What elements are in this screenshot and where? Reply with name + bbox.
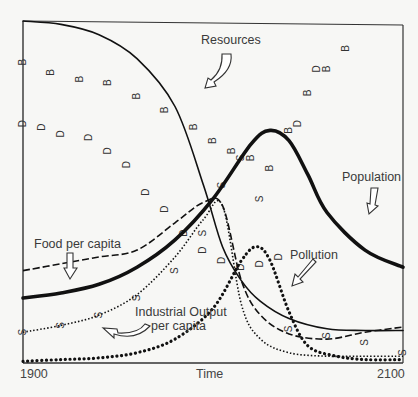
marker-d: D bbox=[102, 147, 113, 154]
resources-label: Resources bbox=[201, 33, 261, 47]
marker-d: D bbox=[121, 161, 132, 168]
marker-d: D bbox=[140, 188, 151, 195]
marker-b: B bbox=[45, 69, 56, 76]
label-arrows bbox=[64, 54, 378, 338]
pollution-label: Pollution bbox=[290, 248, 338, 262]
marker-s: S bbox=[197, 229, 208, 236]
marker-s: S bbox=[254, 195, 265, 202]
marker-b: B bbox=[74, 75, 85, 82]
marker-b: B bbox=[102, 79, 113, 86]
marker-b: B bbox=[159, 106, 170, 113]
marker-d: D bbox=[254, 260, 265, 267]
industrial-label-line2: per capita bbox=[151, 319, 206, 333]
marker-b: B bbox=[302, 89, 313, 96]
marker-b: B bbox=[188, 123, 199, 130]
marker-d: D bbox=[273, 253, 284, 260]
marker-b: B bbox=[264, 164, 275, 171]
marker-b: B bbox=[245, 154, 256, 161]
pollution-curve bbox=[23, 247, 403, 362]
marker-d: D bbox=[292, 120, 303, 127]
marker-s: S bbox=[169, 267, 180, 274]
marker-d: D bbox=[197, 247, 208, 254]
industrial-output-per-capita-curve bbox=[23, 201, 403, 357]
marker-d: D bbox=[17, 120, 28, 127]
marker-d: D bbox=[83, 134, 94, 141]
world3-chart: BBBBBBBBBBBBBBBDDDDDDDDDDDDDDDDSSSSSSSSS… bbox=[0, 0, 418, 397]
marker-b: B bbox=[131, 93, 142, 100]
marker-s: S bbox=[321, 332, 332, 339]
industrial-arrow-icon bbox=[103, 324, 150, 338]
marker-b: B bbox=[207, 137, 218, 144]
x-axis-title: Time bbox=[196, 367, 223, 381]
marker-s: S bbox=[283, 325, 294, 332]
industrial-label-line1: Industrial Output bbox=[135, 305, 227, 319]
marker-d: D bbox=[311, 65, 322, 72]
food-label: Food per capita bbox=[34, 237, 121, 251]
marker-s: S bbox=[17, 329, 28, 336]
x-tick-2100: 2100 bbox=[377, 367, 405, 381]
resources-arrow-icon bbox=[205, 54, 231, 88]
marker-s: S bbox=[397, 349, 408, 356]
pollution-arrow-icon bbox=[292, 259, 316, 286]
marker-b: B bbox=[17, 58, 28, 65]
marker-b: B bbox=[321, 65, 332, 72]
population-arrow-icon bbox=[367, 188, 378, 214]
marker-d: D bbox=[55, 130, 66, 137]
marker-d: D bbox=[36, 123, 47, 130]
population-label: Population bbox=[342, 170, 401, 184]
food-arrow-icon bbox=[64, 253, 77, 279]
marker-b: B bbox=[340, 45, 351, 52]
marker-d: D bbox=[159, 205, 170, 212]
x-tick-1900: 1900 bbox=[20, 367, 48, 381]
marker-b: B bbox=[226, 147, 237, 154]
marker-s: S bbox=[359, 339, 370, 346]
marker-d: D bbox=[216, 257, 227, 264]
marker-s: S bbox=[55, 322, 66, 329]
